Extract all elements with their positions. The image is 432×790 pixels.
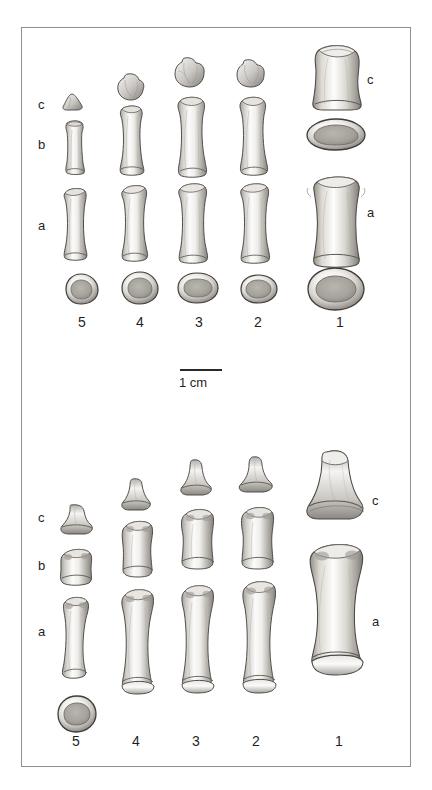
row-label-a-lower-right: a xyxy=(372,615,379,628)
bone-lower-d1-a xyxy=(299,540,373,678)
digit-number-lower-2: 2 xyxy=(252,735,260,748)
bone-lower-d2-b xyxy=(235,503,279,571)
digit-number-lower-4: 4 xyxy=(132,735,140,748)
bone-lower-d3-a xyxy=(174,582,220,696)
bone-lower-d2-c xyxy=(236,455,278,497)
bone-lower-d5-a xyxy=(55,594,95,680)
bone-lower-d4-c xyxy=(118,477,156,515)
bone-lower-d2-a xyxy=(234,578,282,696)
row-label-a-lower-left: a xyxy=(38,625,45,638)
bone-lower-d3-c xyxy=(177,458,217,500)
bone-lower-d1-c xyxy=(300,448,372,530)
bone-lower-d5-b xyxy=(55,545,97,587)
row-label-c-lower-left: c xyxy=(38,511,45,524)
bone-lower-d5-c xyxy=(57,503,97,539)
digit-number-lower-1: 1 xyxy=(335,735,343,748)
digit-number-lower-3: 3 xyxy=(192,735,200,748)
bone-lower-d4-b xyxy=(116,517,158,579)
row-label-c-lower-right: c xyxy=(372,494,379,507)
digit-number-lower-5: 5 xyxy=(72,735,80,748)
lower-plate: c b a c a xyxy=(0,0,432,790)
bone-lower-d4-a xyxy=(114,586,160,696)
figure-plate: c b a c a xyxy=(0,0,432,790)
xsection-lower-d5 xyxy=(56,695,98,733)
row-label-b-lower-left: b xyxy=(38,559,45,572)
bone-lower-d3-b xyxy=(175,505,219,571)
